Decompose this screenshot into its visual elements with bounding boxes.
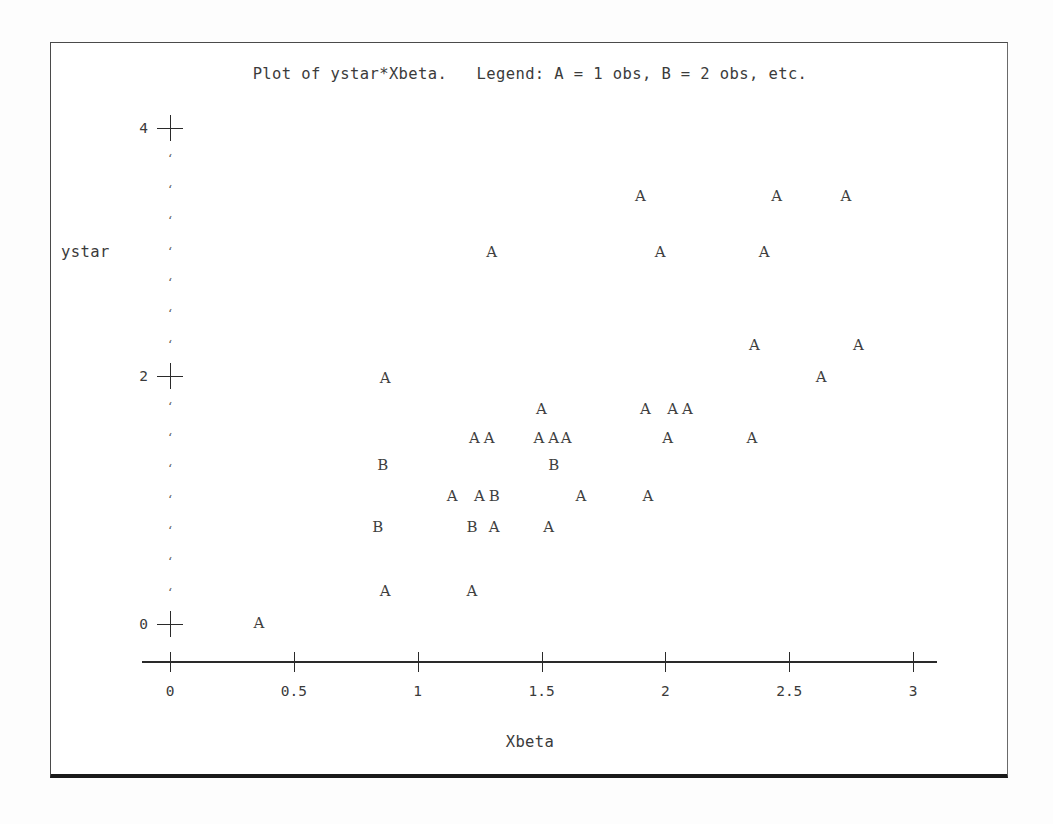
y-axis-tick <box>157 611 183 637</box>
y-axis-tick-label: 0 <box>139 616 148 632</box>
y-axis-minor-tick: ‘ <box>168 338 172 353</box>
y-axis-minor-tick: ‘ <box>168 462 172 477</box>
data-point: B <box>466 518 478 536</box>
data-point: B <box>377 456 389 474</box>
data-point: A <box>667 400 678 418</box>
data-point: B <box>372 518 384 536</box>
y-axis-minor-tick: ‘ <box>168 307 172 322</box>
data-point: A <box>380 582 391 600</box>
data-point: A <box>380 369 391 387</box>
x-axis-tick-label: 0 <box>166 683 175 699</box>
x-axis-tick <box>418 652 419 672</box>
data-point: B <box>548 456 560 474</box>
data-point: A <box>548 429 559 447</box>
data-point: A <box>655 243 666 261</box>
y-axis-tick <box>157 363 183 389</box>
data-point: A <box>640 400 651 418</box>
data-point: A <box>853 336 864 354</box>
y-axis-minor-tick: ‘ <box>168 214 172 229</box>
data-point: A <box>749 336 760 354</box>
x-axis-tick-label: 2 <box>661 683 670 699</box>
x-axis-tick-label: 1 <box>413 683 422 699</box>
data-point: A <box>816 368 827 386</box>
y-axis-minor-tick: ‘ <box>168 586 172 601</box>
data-point: A <box>682 400 693 418</box>
x-axis-tick-label: 1.5 <box>528 683 554 699</box>
data-point: A <box>746 429 757 447</box>
y-axis-tick-label: 2 <box>139 368 148 384</box>
data-point: A <box>642 487 653 505</box>
x-axis-tick <box>789 652 790 672</box>
y-axis-minor-tick: ‘ <box>168 431 172 446</box>
data-point: A <box>662 429 673 447</box>
data-point: A <box>841 187 852 205</box>
y-axis-minor-tick: ‘ <box>168 152 172 167</box>
y-axis-minor-tick: ‘ <box>168 276 172 291</box>
data-point: A <box>543 518 554 536</box>
y-axis-minor-tick: ‘ <box>168 555 172 570</box>
data-point: A <box>771 187 782 205</box>
x-axis-tick <box>665 652 666 672</box>
data-point: A <box>486 243 497 261</box>
data-point: A <box>484 429 495 447</box>
data-point: B <box>489 487 501 505</box>
data-point: A <box>474 487 485 505</box>
y-axis-tick-label: 4 <box>139 120 148 136</box>
x-axis-tick-label: 3 <box>909 683 918 699</box>
data-point: A <box>469 429 480 447</box>
x-axis-tick <box>170 652 171 672</box>
y-axis-minor-tick: ‘ <box>168 493 172 508</box>
y-axis-minor-tick: ‘ <box>168 183 172 198</box>
data-point: A <box>254 614 265 632</box>
data-point: A <box>533 429 544 447</box>
data-point: A <box>447 487 458 505</box>
data-point: A <box>759 243 770 261</box>
data-point: A <box>536 400 547 418</box>
y-axis-minor-tick: ‘ <box>168 245 172 260</box>
plot-canvas: 00.511.522.53024‘‘‘‘‘‘‘‘‘‘‘‘‘‘AAAAAAAAAA… <box>51 43 1009 779</box>
x-axis-line <box>142 661 937 663</box>
x-axis-tick-label: 0.5 <box>281 683 307 699</box>
x-axis-tick <box>294 652 295 672</box>
data-point: A <box>576 487 587 505</box>
y-axis-minor-tick: ‘ <box>168 524 172 539</box>
y-axis-minor-tick: ‘ <box>168 400 172 415</box>
x-axis-tick-label: 2.5 <box>776 683 802 699</box>
y-axis-tick <box>157 115 183 141</box>
scanned-page: Plot of ystar*Xbeta. Legend: A = 1 obs, … <box>0 0 1053 824</box>
x-axis-tick <box>913 652 914 672</box>
plot-frame: Plot of ystar*Xbeta. Legend: A = 1 obs, … <box>50 42 1008 778</box>
data-point: A <box>467 582 478 600</box>
x-axis-tick <box>542 652 543 672</box>
data-point: A <box>635 187 646 205</box>
data-point: A <box>489 518 500 536</box>
data-point: A <box>561 429 572 447</box>
